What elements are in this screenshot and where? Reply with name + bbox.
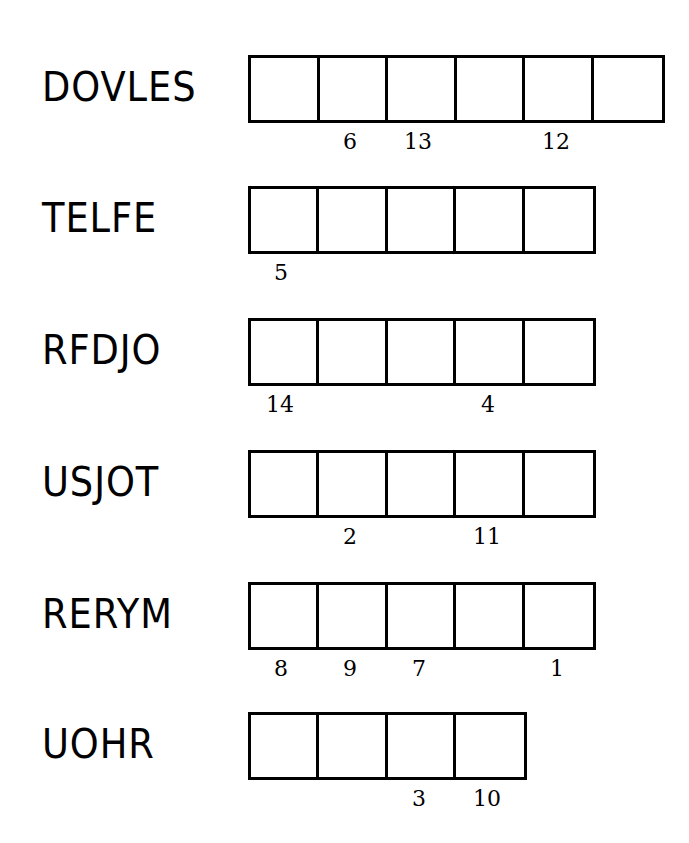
cell-number-label: 9	[343, 658, 357, 680]
answer-cell[interactable]	[456, 189, 524, 251]
answer-boxes	[248, 712, 527, 780]
answer-boxes	[248, 582, 596, 650]
answer-cell[interactable]	[320, 58, 389, 120]
cell-number-label: 6	[343, 131, 357, 153]
cell-number-label: 11	[473, 526, 501, 548]
cell-number-label: 10	[473, 788, 501, 810]
scrambled-word: RFDJO	[42, 330, 161, 370]
answer-cell[interactable]	[456, 585, 524, 647]
answer-cell[interactable]	[525, 321, 593, 383]
answer-cell[interactable]	[251, 189, 319, 251]
answer-boxes	[248, 55, 665, 123]
cell-number-label: 7	[412, 658, 426, 680]
answer-boxes	[248, 450, 596, 518]
scrambled-word: USJOT	[42, 462, 159, 502]
answer-cell[interactable]	[525, 585, 593, 647]
cell-number-label: 12	[542, 131, 570, 153]
cell-number-label: 2	[343, 526, 357, 548]
scrambled-word: TELFE	[42, 198, 157, 238]
answer-boxes	[248, 186, 596, 254]
answer-cell[interactable]	[456, 453, 524, 515]
answer-cell[interactable]	[388, 453, 456, 515]
answer-cell[interactable]	[251, 585, 319, 647]
answer-cell[interactable]	[388, 715, 456, 777]
answer-cell[interactable]	[251, 58, 320, 120]
answer-cell[interactable]	[251, 715, 319, 777]
answer-cell[interactable]	[457, 58, 526, 120]
cell-number-label: 13	[404, 131, 432, 153]
answer-cell[interactable]	[456, 715, 524, 777]
answer-cell[interactable]	[388, 585, 456, 647]
answer-cell[interactable]	[251, 453, 319, 515]
cell-number-label: 14	[266, 394, 294, 416]
answer-cell[interactable]	[251, 321, 319, 383]
answer-cell[interactable]	[388, 321, 456, 383]
answer-cell[interactable]	[456, 321, 524, 383]
answer-cell[interactable]	[525, 58, 594, 120]
answer-cell[interactable]	[525, 189, 593, 251]
scrambled-word: RERYM	[42, 594, 173, 634]
cell-number-label: 3	[412, 788, 426, 810]
answer-cell[interactable]	[319, 715, 387, 777]
cell-number-label: 1	[550, 658, 564, 680]
answer-cell[interactable]	[319, 585, 387, 647]
scrambled-word: DOVLES	[42, 67, 196, 107]
answer-cell[interactable]	[525, 453, 593, 515]
cell-number-label: 4	[481, 394, 495, 416]
answer-cell[interactable]	[388, 58, 457, 120]
answer-cell[interactable]	[319, 189, 387, 251]
answer-cell[interactable]	[594, 58, 662, 120]
answer-cell[interactable]	[388, 189, 456, 251]
scrambled-word: UOHR	[42, 724, 155, 764]
answer-boxes	[248, 318, 596, 386]
cell-number-label: 8	[274, 658, 288, 680]
answer-cell[interactable]	[319, 453, 387, 515]
answer-cell[interactable]	[319, 321, 387, 383]
cell-number-label: 5	[274, 262, 288, 284]
